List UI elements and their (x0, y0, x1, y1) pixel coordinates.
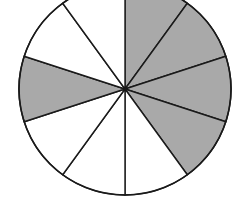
center-point (123, 87, 127, 91)
fraction-circle-diagram (0, 0, 239, 205)
